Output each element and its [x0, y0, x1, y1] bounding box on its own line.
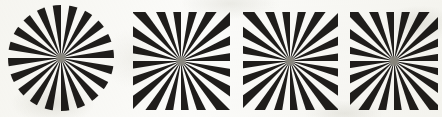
spoke-group	[8, 5, 114, 111]
circular-starburst	[8, 5, 114, 111]
square-starburst-b	[243, 12, 338, 110]
spoke-group	[350, 12, 438, 110]
spoke-group	[133, 12, 230, 110]
figure-plate	[0, 0, 442, 117]
square-starburst-a	[133, 12, 230, 110]
spoke-group	[243, 12, 338, 110]
square-starburst-c	[350, 12, 438, 110]
